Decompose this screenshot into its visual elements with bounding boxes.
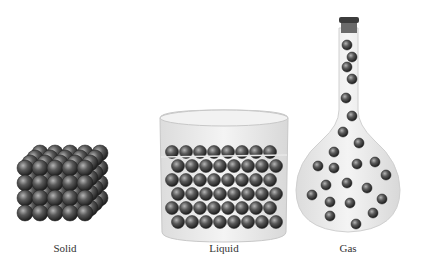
stopper	[339, 17, 359, 33]
solid-lattice	[17, 145, 108, 221]
label-solid: Solid	[25, 242, 105, 254]
label-gas: Gas	[308, 242, 388, 254]
states-of-matter-figure	[0, 0, 429, 267]
label-liquid: Liquid	[184, 242, 264, 254]
